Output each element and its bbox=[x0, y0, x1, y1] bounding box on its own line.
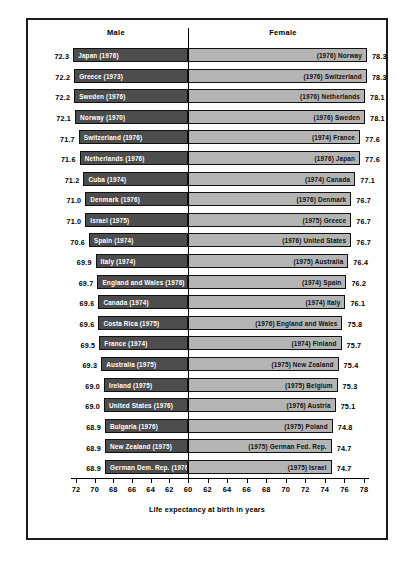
male-bar: France (1974) bbox=[99, 336, 188, 350]
male-bar: Costa Rica (1975) bbox=[98, 316, 188, 330]
male-bar-label: Canada (1974) bbox=[103, 299, 148, 306]
table-row: 71.7Switzerland (1976)(1974) France77.6 bbox=[28, 128, 386, 149]
male-bar-label: Ireland (1975) bbox=[109, 381, 152, 388]
male-value-label: 70.6 bbox=[30, 237, 85, 246]
female-value-label: 78.3 bbox=[372, 52, 387, 61]
female-bar: (1975) New Zealand bbox=[188, 357, 339, 371]
male-bar: Sweden (1976) bbox=[74, 89, 188, 103]
axis-tick bbox=[305, 478, 306, 483]
male-value-label: 68.9 bbox=[30, 423, 101, 432]
female-value-label: 76.2 bbox=[351, 278, 366, 287]
female-bar: (1975) Australia bbox=[188, 254, 348, 268]
female-bar: (1976) Sweden bbox=[188, 110, 365, 124]
female-bar-label: (1976) Japan bbox=[315, 155, 356, 162]
axis-tick-label: 78 bbox=[353, 485, 375, 494]
axis-tick bbox=[344, 478, 345, 483]
female-value-label: 77.6 bbox=[365, 155, 380, 164]
axis-tick bbox=[95, 478, 96, 483]
male-bar: Japan (1976) bbox=[73, 48, 188, 62]
male-bar-label: German Dem. Rep. (1976) bbox=[110, 464, 188, 471]
male-bar-label: Denmark (1976) bbox=[90, 196, 140, 203]
female-bar-label: (1976) Switzerland bbox=[303, 72, 361, 79]
table-row: 72.1Norway (1970)(1976) Sweden78.1 bbox=[28, 108, 386, 129]
female-bar: (1974) Canada bbox=[188, 172, 355, 186]
male-value-label: 68.9 bbox=[30, 464, 101, 473]
axis-tick bbox=[113, 478, 114, 483]
male-bar-label: Netherlands (1976) bbox=[85, 155, 145, 162]
table-row: 70.6Spain (1974)(1976) United States76.7 bbox=[28, 231, 386, 252]
male-bar-label: Italy (1974) bbox=[101, 258, 136, 265]
male-bar-label: England and Wales (1976) bbox=[102, 278, 184, 285]
table-row: 69.6Canada (1974)(1974) Italy76.1 bbox=[28, 293, 386, 314]
female-value-label: 74.7 bbox=[337, 443, 352, 452]
male-bar: United States (1976) bbox=[104, 398, 188, 412]
female-bar: (1976) Japan bbox=[188, 151, 360, 165]
female-bar-label: (1976) Sweden bbox=[314, 113, 360, 120]
female-bar: (1975) Israel bbox=[188, 460, 332, 474]
male-value-label: 71.6 bbox=[30, 155, 76, 164]
male-bar: England and Wales (1976) bbox=[97, 275, 188, 289]
female-value-label: 78.3 bbox=[372, 72, 387, 81]
male-value-label: 71.0 bbox=[30, 196, 81, 205]
male-value-label: 69.0 bbox=[30, 402, 100, 411]
female-value-label: 76.7 bbox=[356, 217, 371, 226]
table-row: 71.0Israel (1975)(1975) Greece76.7 bbox=[28, 211, 386, 232]
axis-tick bbox=[151, 478, 152, 483]
male-value-label: 69.6 bbox=[30, 320, 94, 329]
table-row: 69.3Australia (1975)(1975) New Zealand75… bbox=[28, 355, 386, 376]
female-bar-label: (1975) German Fed. Rep. bbox=[248, 443, 326, 450]
female-value-label: 76.4 bbox=[353, 258, 368, 267]
female-bar-label: (1974) Canada bbox=[305, 175, 350, 182]
female-bar-label: (1974) Finland bbox=[291, 340, 336, 347]
male-bar: Denmark (1976) bbox=[85, 192, 188, 206]
female-value-label: 76.7 bbox=[356, 196, 371, 205]
female-bar: (1974) France bbox=[188, 130, 360, 144]
female-bar-label: (1975) Greece bbox=[302, 216, 346, 223]
male-value-label: 72.1 bbox=[30, 114, 71, 123]
female-bar-label: (1974) Italy bbox=[306, 299, 341, 306]
male-bar-label: Bulgaria (1976) bbox=[110, 422, 158, 429]
male-bar: Ireland (1975) bbox=[104, 378, 188, 392]
axis-tick bbox=[169, 478, 170, 483]
table-row: 71.6Netherlands (1976)(1976) Japan77.6 bbox=[28, 149, 386, 170]
female-bar: (1974) Spain bbox=[188, 275, 346, 289]
female-value-label: 75.4 bbox=[344, 361, 359, 370]
bar-rows-container: 72.3Japan (1976)(1976) Norway78.372.2Gre… bbox=[28, 46, 386, 478]
table-row: 71.2Cuba (1974)(1974) Canada77.1 bbox=[28, 170, 386, 191]
axis-tick bbox=[325, 478, 326, 483]
female-bar-label: (1976) England and Wales bbox=[255, 319, 337, 326]
female-bar: (1975) Poland bbox=[188, 419, 333, 433]
female-value-label: 75.1 bbox=[341, 402, 356, 411]
female-bar: (1974) Italy bbox=[188, 295, 345, 309]
male-bar-label: Cuba (1974) bbox=[88, 175, 126, 182]
female-bar: (1975) Greece bbox=[188, 213, 351, 227]
axis-tick bbox=[247, 478, 248, 483]
male-value-label: 69.6 bbox=[30, 299, 94, 308]
male-bar: Cuba (1974) bbox=[83, 172, 188, 186]
male-bar-label: Israel (1975) bbox=[90, 216, 129, 223]
female-value-label: 75.8 bbox=[347, 320, 362, 329]
female-bar-label: (1974) Spain bbox=[302, 278, 341, 285]
chart-header: Male Female bbox=[28, 20, 386, 46]
male-value-label: 71.7 bbox=[30, 134, 75, 143]
figure: Male Female 72.3Japan (1976)(1976) Norwa… bbox=[0, 0, 414, 563]
axis-tick bbox=[208, 478, 209, 483]
table-row: 68.9Bulgaria (1976)(1975) Poland74.8 bbox=[28, 417, 386, 438]
female-value-label: 76.1 bbox=[350, 299, 365, 308]
female-bar-label: (1976) Austria bbox=[287, 402, 331, 409]
male-bar-label: Sweden (1976) bbox=[79, 93, 125, 100]
male-value-label: 69.5 bbox=[30, 340, 95, 349]
female-value-label: 77.6 bbox=[365, 134, 380, 143]
male-bar: New Zealand (1975) bbox=[105, 439, 188, 453]
female-value-label: 78.1 bbox=[370, 114, 385, 123]
male-value-label: 72.3 bbox=[30, 52, 69, 61]
table-row: 68.9German Dem. Rep. (1976)(1975) Israel… bbox=[28, 458, 386, 479]
male-bar-label: Costa Rica (1975) bbox=[103, 319, 159, 326]
female-bar-label: (1975) Belgium bbox=[285, 381, 333, 388]
female-bar-label: (1975) New Zealand bbox=[272, 361, 334, 368]
female-value-label: 75.7 bbox=[347, 340, 362, 349]
female-bar-label: (1976) Netherlands bbox=[300, 93, 360, 100]
female-bar: (1975) German Fed. Rep. bbox=[188, 439, 332, 453]
axis-tick bbox=[132, 478, 133, 483]
female-bar-label: (1976) Norway bbox=[317, 52, 362, 59]
